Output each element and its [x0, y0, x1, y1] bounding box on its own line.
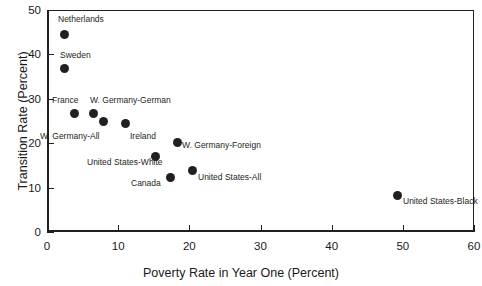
data-point: [188, 166, 197, 175]
x-tick-mark: [261, 225, 262, 232]
x-tick-mark: [47, 225, 48, 232]
data-point-label: Canada: [131, 178, 161, 188]
x-tick-label: 40: [312, 240, 352, 252]
x-tick-mark: [403, 225, 404, 232]
x-tick-mark: [474, 225, 475, 232]
data-point-label: W. Germany-Foreign: [182, 140, 261, 150]
y-tick-mark: [47, 232, 54, 233]
y-tick-mark: [47, 143, 54, 144]
data-point: [60, 64, 69, 73]
data-point: [60, 30, 69, 39]
data-point-label: Ireland: [130, 131, 156, 141]
data-point-label: United States-White: [87, 157, 163, 167]
data-point-label: W. Germany-All: [40, 131, 100, 141]
x-tick-mark: [118, 225, 119, 232]
data-point-label: Sweden: [60, 50, 91, 60]
data-point: [70, 109, 79, 118]
x-axis-title: Poverty Rate in Year One (Percent): [0, 266, 482, 280]
data-point: [173, 138, 182, 147]
y-tick-label: 0: [13, 226, 41, 238]
data-point-label: France: [52, 95, 78, 105]
x-tick-label: 60: [454, 240, 482, 252]
x-tick-label: 20: [169, 240, 209, 252]
data-point: [121, 119, 130, 128]
data-point-label: United States-All: [198, 172, 261, 182]
y-tick-mark: [47, 54, 54, 55]
data-point-label: Netherlands: [58, 14, 104, 24]
y-tick-label: 50: [13, 4, 41, 16]
x-tick-label: 10: [98, 240, 138, 252]
y-axis-title: Transition Rate (Percent): [16, 36, 30, 206]
x-tick-mark: [189, 225, 190, 232]
x-tick-label: 50: [383, 240, 423, 252]
scatter-chart-figure: 01020304050 0102030405060 NetherlandsSwe…: [0, 0, 482, 286]
x-tick-label: 30: [241, 240, 281, 252]
x-tick-mark: [332, 225, 333, 232]
x-tick-label: 0: [27, 240, 67, 252]
data-point-label: United States-Black: [403, 196, 478, 206]
data-point-label: W. Germany-German: [90, 95, 171, 105]
y-tick-mark: [47, 188, 54, 189]
y-tick-mark: [47, 10, 54, 11]
data-point: [166, 173, 175, 182]
